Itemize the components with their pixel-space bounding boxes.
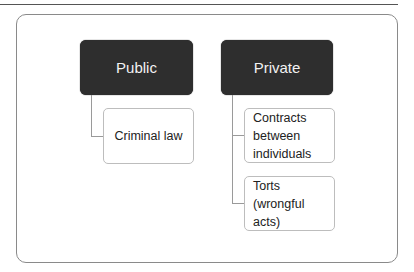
node-contracts-line-2: between bbox=[253, 127, 311, 145]
node-public: Public bbox=[80, 40, 193, 95]
connector-public bbox=[91, 95, 92, 136]
diagram-frame bbox=[16, 14, 398, 263]
top-divider bbox=[0, 4, 398, 5]
connector-private bbox=[232, 95, 233, 203]
node-torts: Torts (wrongful acts) bbox=[244, 176, 335, 231]
connector-public-criminal bbox=[91, 136, 103, 137]
node-torts-line-2: (wrongful bbox=[253, 195, 304, 213]
node-torts-line-3: acts) bbox=[253, 213, 304, 231]
node-private-label: Private bbox=[254, 59, 301, 76]
node-contracts: Contracts between individuals bbox=[244, 108, 335, 163]
node-torts-line-1: Torts bbox=[253, 177, 304, 195]
connector-private-torts bbox=[232, 203, 244, 204]
node-public-label: Public bbox=[116, 59, 157, 76]
node-contracts-line-1: Contracts bbox=[253, 109, 311, 127]
node-private: Private bbox=[221, 40, 333, 95]
node-criminal-law-label: Criminal law bbox=[114, 127, 182, 145]
connector-private-contracts bbox=[232, 135, 244, 136]
node-contracts-line-3: individuals bbox=[253, 145, 311, 163]
node-criminal-law: Criminal law bbox=[103, 108, 194, 164]
